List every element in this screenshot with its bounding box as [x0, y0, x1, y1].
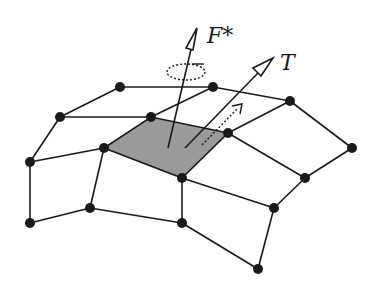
shaded-face — [104, 117, 228, 178]
torque-label: T — [280, 50, 297, 75]
mesh-nodes — [25, 82, 357, 274]
mesh-diagram: F* T — [0, 0, 375, 286]
force-label: F* — [206, 23, 233, 48]
